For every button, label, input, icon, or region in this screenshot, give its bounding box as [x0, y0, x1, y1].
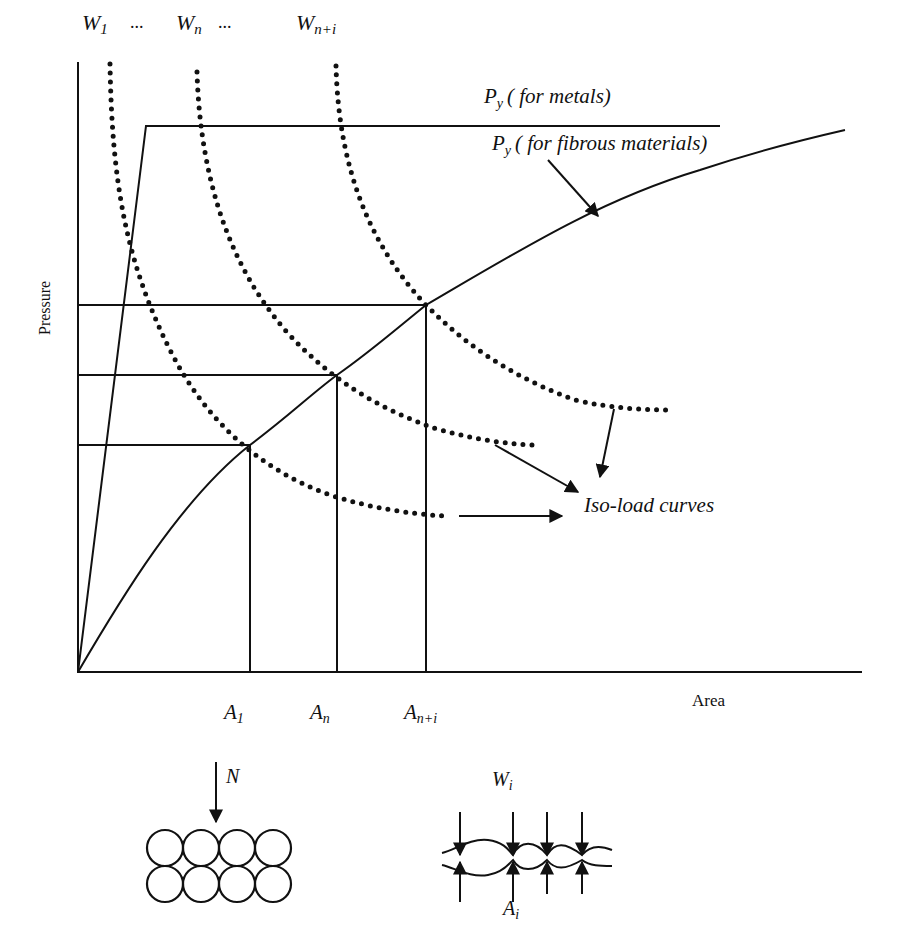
- ellipsis-1: ...: [130, 12, 144, 32]
- iso-load-curve-wn: [197, 72, 535, 445]
- metal-contact-inset: N: [147, 762, 291, 902]
- fibre-upper: [442, 840, 612, 855]
- iso-pointer-arrow-2: [600, 409, 614, 477]
- area-projections: [250, 305, 426, 672]
- ellipsis-2: ...: [218, 12, 232, 32]
- fibrous-yield-curve: [78, 130, 845, 672]
- an-label: An: [308, 700, 330, 726]
- metals-yield-curve: [78, 126, 720, 672]
- iso-load-curve-wni: [336, 66, 672, 410]
- iso-load-curve-w1: [110, 64, 445, 516]
- a1-label: A1: [222, 700, 244, 726]
- metals-label: Py( for metals): [483, 84, 611, 111]
- contact-force-arrows: [460, 812, 582, 902]
- pressure-area-diagram: W1 ... Wn ... Wn+i Py( for metals) Py( f…: [0, 0, 898, 950]
- particle-grid: [147, 830, 291, 902]
- w1-label: W1: [82, 10, 108, 37]
- pressure-projections: [78, 305, 426, 445]
- x-axis-label: Area: [692, 691, 725, 710]
- contact-area-label: Ai: [501, 897, 519, 922]
- fibre-contact-inset: Wi Ai: [442, 768, 612, 922]
- fibrous-label: Py( for fibrous materials): [491, 131, 707, 158]
- wni-label: Wn+i: [296, 10, 336, 37]
- axes: [77, 62, 862, 673]
- normal-force-label: N: [225, 765, 241, 787]
- iso-load-annotation: Iso-load curves: [583, 493, 714, 517]
- iso-pointer-arrow-1: [495, 445, 578, 492]
- fibre-lower: [442, 860, 612, 876]
- y-axis-label: Pressure: [36, 281, 53, 335]
- ani-label: An+i: [402, 700, 437, 726]
- wn-label: Wn: [176, 10, 202, 37]
- fibre-force-label: Wi: [492, 768, 513, 793]
- fibrous-pointer-arrow: [548, 160, 598, 216]
